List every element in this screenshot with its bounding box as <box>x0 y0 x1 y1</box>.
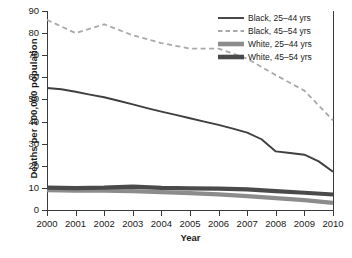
y-tick-label: 40 <box>28 116 39 127</box>
x-tick <box>76 211 77 216</box>
y-tick-label: 90 <box>28 5 39 16</box>
chart-legend: Black, 25–44 yrsBlack, 45–54 yrsWhite, 2… <box>218 12 348 64</box>
line-black-25-44 <box>47 88 333 172</box>
y-axis-title: Deaths per 100,000 population <box>28 14 39 204</box>
y-tick-label: 30 <box>28 138 39 149</box>
x-axis-title: Year <box>47 232 334 243</box>
y-tick-label: 10 <box>28 182 39 193</box>
y-tick-label: 0 <box>34 204 39 215</box>
legend-swatch-2 <box>218 26 244 36</box>
legend-swatch-3 <box>218 39 244 49</box>
legend-label: Black, 25–44 yrs <box>248 13 311 23</box>
legend-item[interactable]: White, 25–44 yrs <box>218 38 348 49</box>
x-tick-label: 2010 <box>316 218 350 229</box>
x-tick <box>161 211 162 216</box>
x-tick <box>247 211 248 216</box>
y-tick-label: 60 <box>28 71 39 82</box>
y-tick-label: 20 <box>28 160 39 171</box>
x-tick <box>276 211 277 216</box>
legend-label: Black, 45–54 yrs <box>248 26 311 36</box>
x-tick <box>333 211 334 216</box>
x-tick <box>190 211 191 216</box>
legend-item[interactable]: White, 45–54 yrs <box>218 51 348 62</box>
chart-container: Deaths per 100,000 population 0102030405… <box>0 0 352 258</box>
y-tick-label: 80 <box>28 27 39 38</box>
legend-item[interactable]: Black, 25–44 yrs <box>218 12 348 23</box>
legend-label: White, 25–44 yrs <box>248 39 312 49</box>
legend-label: White, 45–54 yrs <box>248 52 312 62</box>
x-tick <box>304 211 305 216</box>
y-tick-label: 50 <box>28 93 39 104</box>
legend-swatch-1 <box>218 13 244 23</box>
legend-item[interactable]: Black, 45–54 yrs <box>218 25 348 36</box>
legend-swatch-4 <box>218 52 244 62</box>
x-tick <box>104 211 105 216</box>
x-tick <box>47 211 48 216</box>
x-tick <box>133 211 134 216</box>
y-tick-label: 70 <box>28 49 39 60</box>
x-tick <box>219 211 220 216</box>
